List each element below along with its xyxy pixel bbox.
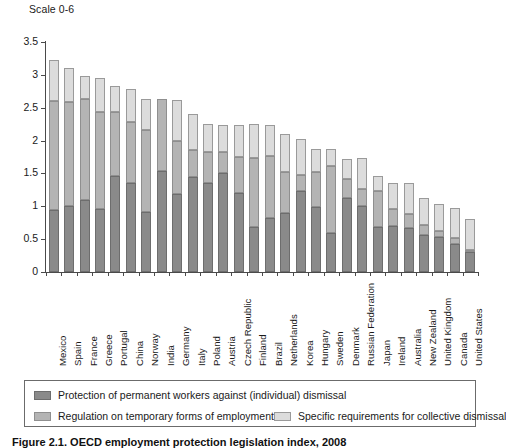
y-tick-label: 0: [8, 265, 38, 277]
bar-china: [126, 89, 136, 272]
bar-segment: [357, 189, 367, 206]
x-label-united-kingdom: United Kingdom: [443, 298, 453, 366]
bar-segment: [234, 157, 244, 193]
bar-segment: [326, 233, 336, 272]
bar-segment: [419, 235, 429, 272]
y-tick-label: 2.5: [8, 101, 38, 113]
bar-segment: [218, 125, 228, 153]
bar-denmark: [342, 159, 352, 272]
legend-label-temporary: Regulation on temporary forms of employm…: [58, 410, 274, 422]
x-tick: [46, 272, 47, 276]
bar-india: [157, 99, 167, 272]
bar-segment: [388, 209, 398, 226]
bar-segment: [249, 227, 259, 272]
x-label-greece: Greece: [104, 335, 114, 366]
x-label-norway: Norway: [150, 333, 160, 366]
x-tick: [216, 272, 217, 276]
bar-segment: [388, 226, 398, 272]
bar-france: [80, 76, 90, 272]
bar-segment: [342, 159, 352, 179]
x-label-czech-republic: Czech Republic: [243, 299, 253, 366]
x-label-japan: Japan: [382, 340, 392, 366]
bar-segment: [203, 183, 213, 272]
bar-segment: [110, 86, 120, 112]
x-label-poland: Poland: [212, 336, 222, 366]
bar-segment: [296, 191, 306, 272]
x-tick: [385, 272, 386, 276]
legend-swatch-temporary: [34, 412, 51, 421]
x-tick: [324, 272, 325, 276]
x-tick: [463, 272, 464, 276]
x-tick: [416, 272, 417, 276]
bar-segment: [95, 78, 105, 113]
scale-note: Scale 0-6: [29, 3, 74, 15]
bar-segment: [49, 60, 59, 101]
bar-germany: [172, 100, 182, 272]
bar-segment: [434, 204, 444, 230]
bar-segment: [64, 68, 74, 102]
x-tick: [169, 272, 170, 276]
bar-segment: [419, 198, 429, 224]
bar-segment: [218, 173, 228, 272]
bar-segment: [296, 175, 306, 191]
bar-segment: [157, 99, 167, 172]
bar-segment: [64, 102, 74, 206]
bar-segment: [218, 152, 228, 172]
bar-segment: [373, 191, 383, 228]
bar-ireland: [388, 183, 398, 272]
bar-australia: [404, 183, 414, 272]
x-label-ireland: Ireland: [397, 337, 407, 366]
legend: Protection of permanent workers against …: [24, 380, 476, 427]
bar-segment: [450, 238, 460, 244]
x-tick: [432, 272, 433, 276]
x-tick: [139, 272, 140, 276]
bar-segment: [296, 139, 306, 174]
bar-segment: [434, 237, 444, 272]
bar-korea: [296, 139, 306, 272]
y-tick-label: 1.5: [8, 166, 38, 178]
bar-segment: [465, 250, 475, 252]
legend-item-temporary: Regulation on temporary forms of employm…: [34, 407, 274, 425]
x-tick: [478, 272, 479, 276]
bar-segment: [80, 76, 90, 99]
legend-swatch-collective: [274, 412, 291, 421]
x-tick: [231, 272, 232, 276]
bar-portugal: [110, 86, 120, 272]
x-label-australia: Australia: [413, 329, 423, 366]
x-label-denmark: Denmark: [351, 327, 361, 366]
bar-segment: [49, 101, 59, 210]
bar-canada: [450, 208, 460, 272]
bar-segment: [450, 244, 460, 272]
x-label-austria: Austria: [227, 336, 237, 366]
bar-segment: [280, 172, 290, 213]
bar-segment: [188, 150, 198, 177]
bar-segment: [234, 193, 244, 272]
x-tick: [108, 272, 109, 276]
legend-item-permanent: Protection of permanent workers against …: [34, 386, 346, 404]
x-tick: [247, 272, 248, 276]
bar-segment: [203, 152, 213, 182]
bar-segment: [311, 207, 321, 272]
x-label-canada: Canada: [459, 332, 469, 366]
x-tick: [200, 272, 201, 276]
bar-segment: [465, 252, 475, 272]
bar-segment: [357, 158, 367, 190]
bar-segment: [203, 124, 213, 152]
bar-norway: [141, 99, 151, 272]
bar-segment: [126, 183, 136, 272]
bar-segment: [141, 130, 151, 212]
bar-united-states: [465, 219, 475, 272]
bar-hungary: [311, 149, 321, 272]
bar-segment: [265, 125, 275, 157]
bar-segment: [311, 172, 321, 207]
bar-segment: [326, 166, 336, 234]
bar-finland: [249, 124, 259, 272]
legend-label-collective: Specific requirements for collective dis…: [298, 410, 506, 422]
bar-segment: [80, 99, 90, 201]
bar-netherlands: [280, 134, 290, 272]
y-tick-label: 0.5: [8, 232, 38, 244]
bar-segment: [188, 114, 198, 149]
bar-segment: [110, 176, 120, 272]
x-tick: [401, 272, 402, 276]
x-label-india: India: [166, 345, 176, 366]
